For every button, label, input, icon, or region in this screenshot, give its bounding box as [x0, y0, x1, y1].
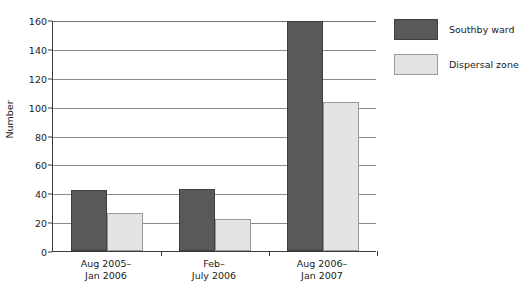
- y-tick-label: 40: [35, 189, 47, 200]
- x-category-label: Aug 2006– Jan 2007: [268, 258, 376, 281]
- legend-label: Dispersal zone: [449, 59, 519, 70]
- bar-southby-ward-0: [71, 190, 107, 251]
- gridline: [53, 50, 376, 51]
- x-tick-mark: [377, 251, 378, 256]
- y-tick-label: 160: [29, 16, 47, 27]
- bar-dispersal-zone-0: [107, 213, 143, 251]
- x-category-label: Aug 2005– Jan 2006: [52, 258, 160, 281]
- gridline: [53, 79, 376, 80]
- x-tick-mark: [269, 251, 270, 256]
- bar-southby-ward-1: [179, 189, 215, 251]
- gridline: [53, 21, 376, 22]
- y-tick-label: 80: [35, 131, 47, 142]
- plot-area: [52, 21, 376, 252]
- legend-swatch-icon: [394, 54, 438, 75]
- y-tick-label: 60: [35, 160, 47, 171]
- y-tick-label: 100: [29, 102, 47, 113]
- legend-label: Southby ward: [449, 24, 515, 35]
- legend-item-dispersal-zone[interactable]: Dispersal zone: [394, 54, 529, 75]
- y-tick-label: 0: [41, 247, 47, 258]
- y-tick-label: 20: [35, 218, 47, 229]
- x-category-label: Feb– July 2006: [160, 258, 268, 281]
- x-tick-mark: [161, 251, 162, 256]
- bar-dispersal-zone-2: [323, 102, 359, 251]
- y-axis: Number 020406080100120140160: [0, 0, 52, 293]
- chart-title: [6, 0, 406, 3]
- bar-southby-ward-2: [287, 21, 323, 251]
- y-axis-title: Number: [4, 90, 15, 150]
- y-tick-label: 120: [29, 73, 47, 84]
- bar-dispersal-zone-1: [215, 219, 251, 251]
- y-tick-label: 140: [29, 44, 47, 55]
- chart-legend: Southby wardDispersal zone: [394, 19, 529, 89]
- legend-item-southby-ward[interactable]: Southby ward: [394, 19, 529, 40]
- legend-swatch-icon: [394, 19, 438, 40]
